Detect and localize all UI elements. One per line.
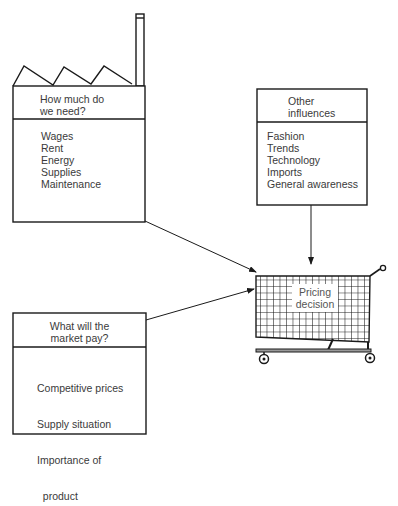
list-item: Fashion bbox=[267, 130, 358, 142]
pricing-decision-label: Pricing decision bbox=[292, 284, 338, 312]
market-heading: What will the market pay? bbox=[13, 320, 146, 344]
factory-heading: How much do we need? bbox=[40, 93, 104, 117]
list-item: Rent bbox=[41, 142, 101, 154]
shopping-cart-icon bbox=[256, 265, 386, 363]
list-item: Imports bbox=[267, 166, 358, 178]
list-item: Competitive prices bbox=[37, 382, 123, 394]
arrow-market-to-cart bbox=[146, 289, 254, 320]
factory-cost-list: Wages Rent Energy Supplies Maintenance bbox=[41, 130, 101, 190]
list-item: Supply situation bbox=[37, 418, 123, 430]
list-item: General awareness bbox=[267, 178, 358, 190]
list-item: product bbox=[37, 490, 123, 502]
influences-heading: Other influences bbox=[288, 95, 335, 119]
list-item: Supplies bbox=[41, 166, 101, 178]
list-item: Energy bbox=[41, 154, 101, 166]
list-item: Technology bbox=[267, 154, 358, 166]
list-item: Importance of bbox=[37, 454, 123, 466]
market-list: Competitive prices Supply situation Impo… bbox=[37, 358, 123, 506]
list-item: Wages bbox=[41, 130, 101, 142]
list-item: Trends bbox=[267, 142, 358, 154]
factory-icon bbox=[13, 14, 145, 222]
list-item: Maintenance bbox=[41, 178, 101, 190]
influences-list: Fashion Trends Technology Imports Genera… bbox=[267, 130, 358, 190]
arrow-factory-to-cart bbox=[145, 221, 256, 272]
